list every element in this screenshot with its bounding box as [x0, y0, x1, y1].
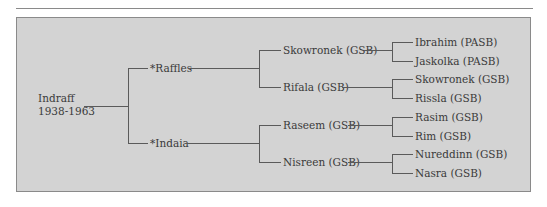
gen3-bracket — [392, 79, 393, 99]
sire-name: *Raffles — [150, 62, 192, 74]
top-rule — [16, 8, 533, 9]
gen2-connector — [364, 50, 392, 51]
ss-sire: Ibrahim (PASB) — [415, 36, 497, 48]
gen2-connector — [259, 162, 281, 163]
gen2-connector — [348, 125, 392, 126]
sire-connector-left — [128, 68, 148, 69]
ss-dam: Jaskolka (PASB) — [415, 55, 500, 67]
gen3-connector — [392, 42, 413, 43]
gen3-connector — [392, 98, 413, 99]
gen3-connector — [392, 117, 413, 118]
dam-connector-left — [128, 143, 148, 144]
sd-sire: Skowronek (GSB) — [415, 73, 509, 85]
gen3-bracket — [392, 117, 393, 137]
gen3-connector — [392, 61, 413, 62]
gen3-connector — [392, 79, 413, 80]
sire-bracket — [259, 50, 260, 88]
gen2-connector — [259, 50, 281, 51]
dd-sire: Nureddinn (GSB) — [415, 148, 507, 160]
dam-name: *Indaia — [150, 137, 189, 149]
ds-dam: Rim (GSB) — [415, 130, 471, 142]
gen2-connector — [342, 87, 392, 88]
dam-bracket — [259, 125, 260, 163]
gen2-connector — [348, 162, 392, 163]
gen3-connector — [392, 154, 413, 155]
gen2-connector — [259, 87, 281, 88]
gen3-connector — [392, 173, 413, 174]
root-name: Indraff — [38, 92, 74, 104]
sire-dam-name: Rifala (GSB) — [283, 81, 349, 93]
gen1-bracket — [128, 68, 129, 144]
root-connector — [84, 106, 128, 107]
sire-connector-right — [189, 68, 259, 69]
dam-connector-right — [185, 143, 259, 144]
gen3-connector — [392, 136, 413, 137]
ds-sire: Rasim (GSB) — [415, 111, 483, 123]
gen3-bracket — [392, 42, 393, 62]
gen2-connector — [259, 125, 281, 126]
sd-dam: Rissla (GSB) — [415, 92, 482, 104]
dd-dam: Nasra (GSB) — [415, 167, 482, 179]
gen3-bracket — [392, 154, 393, 174]
